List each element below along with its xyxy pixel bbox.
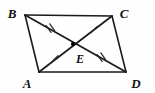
geometry-figure: B C A D E	[0, 0, 155, 93]
vertex-label-D: D	[130, 76, 141, 91]
tick-mark-stroke	[91, 27, 97, 33]
tick-segment-CE	[91, 27, 97, 33]
edge-AB-left	[25, 15, 39, 72]
parallelogram-svg: B C A D E	[0, 0, 155, 93]
vertex-label-A: A	[22, 76, 32, 91]
edge-CD-right	[112, 16, 126, 72]
intersection-point-dot	[71, 42, 75, 46]
vertex-label-B: B	[7, 6, 17, 21]
vertex-label-C: C	[120, 6, 129, 21]
edge-BC-top	[25, 15, 112, 16]
intersection-label-E: E	[75, 52, 84, 66]
